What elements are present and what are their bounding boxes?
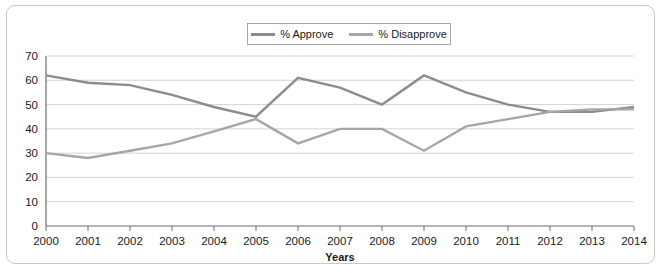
x-tick-label: 2007	[327, 235, 353, 247]
line-chart-plot: 010203040506070 200020012002200320042005…	[0, 0, 663, 273]
x-tick-label: 2003	[159, 235, 185, 247]
x-tick-label: 2012	[537, 235, 563, 247]
x-tick-label: 2001	[75, 235, 101, 247]
x-tick-label: 2002	[117, 235, 143, 247]
x-tick-label: 2009	[411, 235, 437, 247]
x-tick-label: 2005	[243, 235, 269, 247]
axis-lines	[46, 56, 634, 226]
y-tick-label: 70	[25, 50, 38, 62]
x-tick-label: 2014	[621, 235, 647, 247]
series-line-approve	[46, 75, 634, 116]
data-series	[46, 75, 634, 158]
y-tick-label: 50	[25, 99, 38, 111]
x-tick-label: 2006	[285, 235, 311, 247]
y-tick-label: 30	[25, 147, 38, 159]
x-axis-tick-labels: 2000200120022003200420052006200720082009…	[33, 235, 647, 247]
y-tick-label: 20	[25, 171, 38, 183]
axis-tick-marks	[46, 226, 634, 231]
x-tick-label: 2000	[33, 235, 59, 247]
x-tick-label: 2008	[369, 235, 395, 247]
series-line-disapprove	[46, 109, 634, 158]
y-tick-label: 60	[25, 74, 38, 86]
y-tick-label: 40	[25, 123, 38, 135]
x-tick-label: 2004	[201, 235, 227, 247]
x-tick-label: 2010	[453, 235, 479, 247]
y-axis-tick-labels: 010203040506070	[25, 50, 38, 232]
x-axis-title: Years	[325, 251, 354, 263]
x-tick-label: 2013	[579, 235, 605, 247]
y-tick-label: 0	[32, 220, 38, 232]
x-tick-label: 2011	[496, 235, 521, 247]
y-tick-label: 10	[25, 196, 38, 208]
